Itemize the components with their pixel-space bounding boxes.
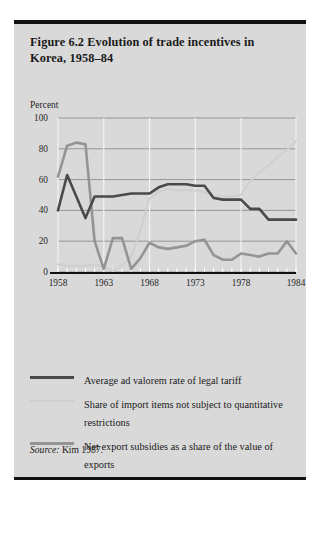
top-rule	[14, 20, 306, 24]
gridlines	[58, 118, 296, 272]
x-axis-tick-marks	[58, 268, 296, 272]
data-series-group	[58, 141, 296, 270]
legend-item-tariff: Average ad valorem rate of legal tariff	[30, 370, 292, 388]
source-note: Source: Kim 1987.	[30, 444, 103, 455]
series-line-3	[58, 143, 296, 269]
y-axis-caption: Percent	[30, 100, 59, 110]
chart-canvas	[14, 112, 306, 282]
series-line-2	[58, 141, 296, 270]
figure-title: Figure 6.2 Evolution of trade incentives…	[30, 34, 292, 66]
vertical-gridlines	[58, 118, 296, 272]
figure-panel: Figure 6.2 Evolution of trade incentives…	[14, 20, 306, 480]
source-prefix: Source:	[30, 444, 59, 455]
legend-swatch-tariff	[30, 376, 74, 379]
series-line-1	[58, 175, 296, 220]
legend-label-tariff: Average ad valorem rate of legal tariff	[84, 375, 241, 386]
chart-svg	[14, 112, 306, 282]
legend-label-export-subsidies: Net export subsidies as a share of the v…	[84, 441, 273, 470]
bottom-rule	[14, 477, 306, 480]
x-tick-1984: 1984	[287, 278, 306, 288]
x-tick-1963: 1963	[94, 278, 113, 288]
legend-swatch-import-share	[30, 400, 74, 402]
x-tick-1968: 1968	[140, 278, 159, 288]
x-axis-tick-labels: 195819631968197319781984	[14, 278, 306, 292]
legend-label-import-share: Share of import items not subject to qua…	[84, 399, 283, 428]
x-tick-1978: 1978	[232, 278, 251, 288]
source-citation: Kim 1987.	[59, 444, 102, 455]
legend-item-import-share: Share of import items not subject to qua…	[30, 394, 292, 430]
chart-legend: Average ad valorem rate of legal tariff …	[30, 370, 292, 478]
x-tick-1958: 1958	[49, 278, 68, 288]
x-tick-1973: 1973	[186, 278, 205, 288]
